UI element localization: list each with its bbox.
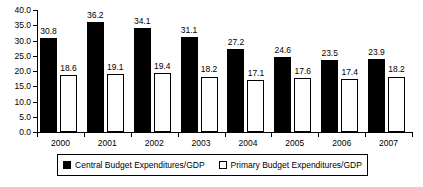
legend-label-central: Central Budget Expenditures/GDP (75, 161, 204, 170)
bar-value-label: 23.5 (316, 49, 343, 58)
bar-value-label: 36.2 (82, 11, 109, 20)
bar-2001-series-1 (107, 74, 124, 132)
y-axis-tick-label: 35.0 (14, 21, 31, 30)
x-axis-label-2004: 2004 (225, 139, 272, 148)
x-axis-label-2005: 2005 (271, 139, 318, 148)
bar-2002-series-0 (134, 28, 151, 132)
bar-2004-series-0 (227, 49, 244, 132)
y-axis-tick-label: 40.0 (14, 6, 31, 15)
legend-swatch-hollow-icon (219, 161, 227, 169)
x-axis-tick (271, 133, 272, 137)
bar-chart: 40.035.030.025.020.015.010.05.00.0 30.81… (0, 0, 423, 187)
bar-value-label: 30.8 (35, 27, 62, 36)
x-axis-tick (412, 133, 413, 137)
x-axis-label-2001: 2001 (84, 139, 131, 148)
bar-2003-series-0 (181, 37, 198, 132)
y-axis-tick (33, 132, 37, 133)
x-axis-label-2007: 2007 (365, 139, 412, 148)
y-axis-tick (33, 25, 37, 26)
y-axis-tick-label: 25.0 (14, 52, 31, 61)
y-axis-tick (33, 10, 37, 11)
bar-value-label: 18.6 (55, 64, 82, 73)
y-axis-tick (33, 71, 37, 72)
bar-value-label: 24.6 (269, 46, 296, 55)
legend-label-primary: Primary Budget Expenditures/GDP (231, 161, 362, 170)
bar-value-label: 34.1 (129, 17, 156, 26)
x-axis-label-2003: 2003 (178, 139, 225, 148)
x-axis-label-2002: 2002 (131, 139, 178, 148)
y-axis-tick-label: 0.0 (19, 128, 31, 137)
bar-2001-series-0 (87, 22, 104, 132)
x-axis-tick (178, 133, 179, 137)
legend-item-primary: Primary Budget Expenditures/GDP (219, 161, 362, 170)
y-axis-tick (33, 117, 37, 118)
bar-value-label: 17.1 (242, 69, 269, 78)
plot-area: 30.818.636.219.134.119.431.118.227.217.1… (37, 10, 412, 132)
y-axis-tick (33, 86, 37, 87)
y-axis-tick (33, 56, 37, 57)
x-axis-label-2000: 2000 (37, 139, 84, 148)
bar-value-label: 17.6 (289, 67, 316, 76)
y-axis-tick-label: 10.0 (14, 98, 31, 107)
y-axis-tick-label: 20.0 (14, 67, 31, 76)
x-axis-tick (84, 133, 85, 137)
bar-value-label: 27.2 (222, 38, 249, 47)
y-axis-tick-label: 5.0 (19, 113, 31, 122)
bar-value-label: 31.1 (176, 26, 203, 35)
bar-2000-series-0 (40, 38, 57, 132)
bar-value-label: 17.4 (336, 68, 363, 77)
y-axis-tick-label: 30.0 (14, 37, 31, 46)
x-axis-tick (318, 133, 319, 137)
bar-2006-series-1 (341, 79, 358, 132)
y-axis-tick-label: 15.0 (14, 82, 31, 91)
legend-item-central: Central Budget Expenditures/GDP (63, 161, 204, 170)
x-axis-tick (131, 133, 132, 137)
bar-2002-series-1 (154, 73, 171, 132)
bar-value-label: 23.9 (363, 48, 390, 57)
bar-value-label: 18.2 (383, 65, 410, 74)
bar-value-label: 19.1 (102, 63, 129, 72)
bar-value-label: 18.2 (196, 65, 223, 74)
chart-legend: Central Budget Expenditures/GDP Primary … (57, 154, 368, 176)
bar-2000-series-1 (60, 75, 77, 132)
bar-2007-series-1 (388, 77, 405, 133)
bar-value-label: 19.4 (149, 62, 176, 71)
bar-2005-series-1 (294, 78, 311, 132)
bar-2003-series-1 (201, 77, 218, 133)
x-axis-label-2006: 2006 (318, 139, 365, 148)
y-axis-tick (33, 102, 37, 103)
y-axis-labels: 40.035.030.025.020.015.010.05.00.0 (0, 0, 31, 143)
x-axis-tick (37, 133, 38, 137)
y-axis-tick (33, 41, 37, 42)
bar-2004-series-1 (247, 80, 264, 132)
x-axis-tick (365, 133, 366, 137)
x-axis-tick (225, 133, 226, 137)
legend-swatch-filled-icon (63, 161, 71, 169)
